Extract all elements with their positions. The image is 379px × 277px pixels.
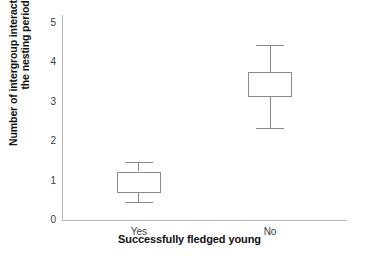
upper-whisker-cap	[125, 162, 153, 163]
y-tick-label-0: 0	[50, 215, 56, 225]
box-plot-figure: Number of intergroup interactions during…	[0, 0, 379, 277]
interquartile-box	[117, 172, 161, 194]
y-axis-title: Number of intergroup interactions during…	[2, 0, 36, 150]
upper-whisker-line	[138, 162, 139, 172]
y-tick-label-4: 4	[50, 57, 56, 67]
lower-whisker-line	[138, 193, 139, 202]
box-plot-yes	[117, 15, 161, 220]
lower-whisker-cap	[256, 128, 284, 129]
x-axis-line	[62, 220, 347, 221]
box-plot-no	[248, 15, 292, 220]
y-axis-title-line-2: the nesting period	[19, 0, 32, 89]
plot-area: 543210 YesNo	[62, 15, 347, 220]
y-tick-label-3: 3	[50, 97, 56, 107]
y-axis-line	[62, 15, 63, 220]
lower-whisker-line	[270, 97, 271, 129]
y-tick-label-5: 5	[50, 18, 56, 28]
x-axis-title: Successfully fledged young	[0, 233, 379, 245]
y-tick-label-1: 1	[50, 176, 56, 186]
upper-whisker-cap	[256, 45, 284, 46]
lower-whisker-cap	[125, 202, 153, 203]
upper-whisker-line	[270, 45, 271, 73]
y-axis-title-line-1: Number of intergroup interactions during	[7, 0, 20, 146]
interquartile-box	[248, 72, 292, 96]
y-tick-label-2: 2	[50, 136, 56, 146]
